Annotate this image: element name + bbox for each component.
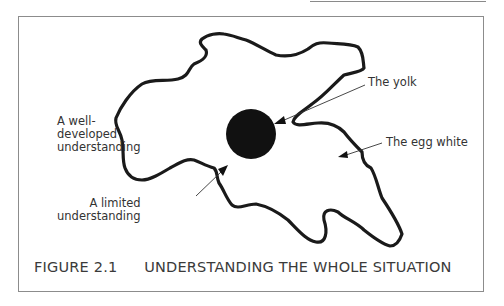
yolk-leader-line bbox=[282, 85, 365, 121]
well-developed-label: A well- developed understanding bbox=[57, 115, 141, 154]
yolk-arrowhead-icon bbox=[274, 116, 286, 124]
egg-white-arrowhead-icon bbox=[338, 151, 348, 158]
limited-arrowhead-icon bbox=[218, 165, 228, 176]
limited-line-2: understanding bbox=[57, 210, 141, 223]
egg-white-leader-line bbox=[346, 143, 382, 155]
limited-label: A limited understanding bbox=[57, 197, 141, 223]
figure-title: UNDERSTANDING THE WHOLE SITUATION bbox=[144, 259, 451, 275]
well-developed-line-3: understanding bbox=[57, 141, 141, 154]
figure-caption: FIGURE 2.1 UNDERSTANDING THE WHOLE SITUA… bbox=[34, 259, 452, 275]
yolk-label: The yolk bbox=[368, 76, 417, 89]
egg-white-label: The egg white bbox=[386, 136, 468, 149]
limited-leader-line bbox=[196, 172, 221, 196]
figure-number: FIGURE 2.1 bbox=[34, 259, 117, 275]
yolk-circle bbox=[226, 109, 276, 159]
